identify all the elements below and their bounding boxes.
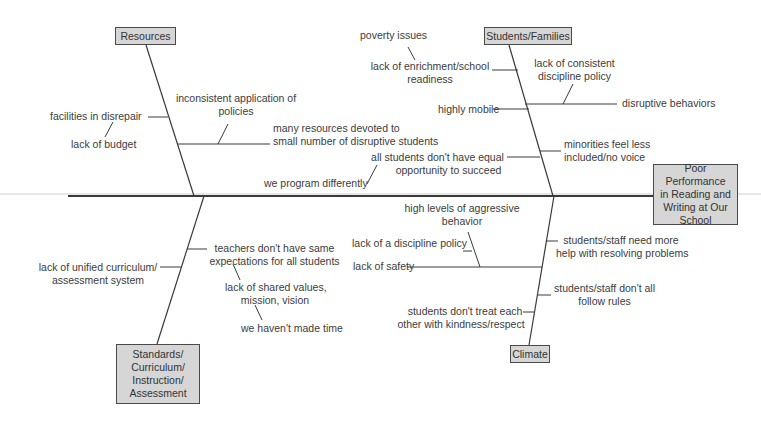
category-label: Climate xyxy=(512,348,548,361)
cause-resolving-problems: students/staff need more help with resol… xyxy=(556,234,686,260)
category-climate: Climate xyxy=(510,345,550,363)
label-line: follow rules xyxy=(552,295,657,308)
label-line: small number of disruptive students xyxy=(273,135,443,148)
category-label: Standards/ xyxy=(133,348,184,361)
cause-equal-opportunity: all students don't have equal opportunit… xyxy=(370,151,505,177)
effect-box: Poor Performance in Reading and Writing … xyxy=(653,164,738,225)
subcause-discipline-policy: lack of a discipline policy xyxy=(352,237,467,250)
category-label: Curriculum/ xyxy=(131,361,185,374)
label-line: expectations for all students xyxy=(207,255,342,268)
cause-many-resources: many resources devoted to small number o… xyxy=(273,122,443,148)
label-line: minorities feel less xyxy=(564,138,650,151)
category-students-families: Students/Families xyxy=(484,27,572,45)
label-line: help with resolving problems xyxy=(556,247,686,260)
subcause-budget: lack of budget xyxy=(71,138,136,151)
category-label: Students/Families xyxy=(486,30,569,43)
cause-enrichment: lack of enrichment/school readiness xyxy=(370,60,490,86)
label-line: lack of enrichment/school xyxy=(370,60,490,73)
label-line: high levels of aggressive xyxy=(402,202,522,215)
effect-label: in Reading and xyxy=(660,188,731,201)
label-line: policies xyxy=(174,105,298,118)
subcause-aggressive: high levels of aggressive behavior xyxy=(402,202,522,228)
label-line: assessment system xyxy=(36,274,160,287)
effect-label: School xyxy=(679,214,711,227)
cause-teacher-expectations: teachers don't have same expectations fo… xyxy=(207,242,342,268)
label-line: readiness xyxy=(370,73,490,86)
label-line: inconsistent application of xyxy=(174,92,298,105)
cause-facilities: facilities in disrepair xyxy=(50,110,142,123)
label-line: included/no voice xyxy=(564,151,650,164)
cause-disruptive: disruptive behaviors xyxy=(622,97,715,110)
category-standards: Standards/ Curriculum/ Instruction/ Asse… xyxy=(116,344,200,404)
subcause-shared-values: lack of shared values, mission, vision xyxy=(225,281,325,307)
label-line: other with kindness/respect xyxy=(396,318,526,331)
cause-kindness: students don't treat each other with kin… xyxy=(396,305,526,331)
label-line: lack of consistent xyxy=(532,57,617,70)
subcause-made-time: we haven't made time xyxy=(241,322,343,335)
label-line: lack of shared values, xyxy=(225,281,325,294)
subcause-poverty: poverty issues xyxy=(360,29,427,42)
label-line: many resources devoted to xyxy=(273,122,443,135)
label-line: students don't treat each xyxy=(396,305,526,318)
category-label: Assessment xyxy=(129,387,186,400)
label-line: discipline policy xyxy=(532,70,617,83)
cause-inconsistent: inconsistent application of policies xyxy=(174,92,298,118)
label-line: lack of unified curriculum/ xyxy=(36,261,160,274)
cause-unified-curriculum: lack of unified curriculum/ assessment s… xyxy=(36,261,160,287)
category-label: Resources xyxy=(120,30,170,43)
cause-highly-mobile: highly mobile xyxy=(438,103,499,116)
subcause-program: we program differently xyxy=(264,177,368,190)
label-line: opportunity to succeed xyxy=(370,164,505,177)
label-line: mission, vision xyxy=(225,294,325,307)
label-line: teachers don't have same xyxy=(207,242,342,255)
category-label: Instruction/ xyxy=(132,374,183,387)
subcause-consistent-discipline: lack of consistent discipline policy xyxy=(532,57,617,83)
cause-safety: lack of safety xyxy=(353,260,414,273)
fishbone-diagram: Resources Students/Families Standards/ C… xyxy=(0,0,761,422)
category-resources: Resources xyxy=(115,27,176,45)
cause-follow-rules: students/staff don't all follow rules xyxy=(552,282,657,308)
label-line: all students don't have equal xyxy=(370,151,505,164)
effect-label: Writing at Our xyxy=(663,201,728,214)
cause-minorities: minorities feel less included/no voice xyxy=(564,138,650,164)
label-line: students/staff need more xyxy=(556,234,686,247)
label-line: behavior xyxy=(402,215,522,228)
label-line: students/staff don't all xyxy=(552,282,657,295)
effect-label: Poor Performance xyxy=(654,162,737,188)
